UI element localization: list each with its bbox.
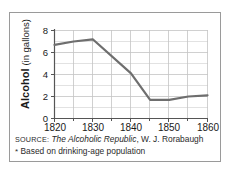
x-tick-label-1830: 1830 bbox=[73, 123, 113, 133]
source-author: , W. J. Rorabaugh bbox=[136, 134, 203, 144]
source-line: SOURCE: The Alcoholic Republic, W. J. Ro… bbox=[15, 134, 220, 146]
figure-frame: Alcohol (in gallons) 8 6 4 2 0 bbox=[9, 12, 221, 162]
source-title: The Alcoholic Republic bbox=[51, 134, 136, 144]
footnote-text: Based on drinking-age population bbox=[20, 146, 145, 156]
source-label: SOURCE: bbox=[15, 135, 49, 144]
x-tick-label-1860: 1860 bbox=[188, 123, 228, 133]
figure-notes: SOURCE: The Alcoholic Republic, W. J. Ro… bbox=[15, 134, 220, 157]
vertical-gridlines bbox=[74, 30, 208, 118]
alcohol-consumption-line bbox=[55, 39, 208, 100]
x-tick-label-1820: 1820 bbox=[35, 123, 75, 133]
chart-svg bbox=[10, 13, 222, 137]
x-tick-label-1840: 1840 bbox=[111, 123, 151, 133]
chart-plot-area: Alcohol (in gallons) 8 6 4 2 0 bbox=[10, 13, 222, 137]
footnote-line: * Based on drinking-age population bbox=[15, 146, 220, 158]
x-tick-label-1850: 1850 bbox=[149, 123, 189, 133]
alcohol-consumption-figure: Alcohol (in gallons) 8 6 4 2 0 bbox=[0, 0, 231, 172]
